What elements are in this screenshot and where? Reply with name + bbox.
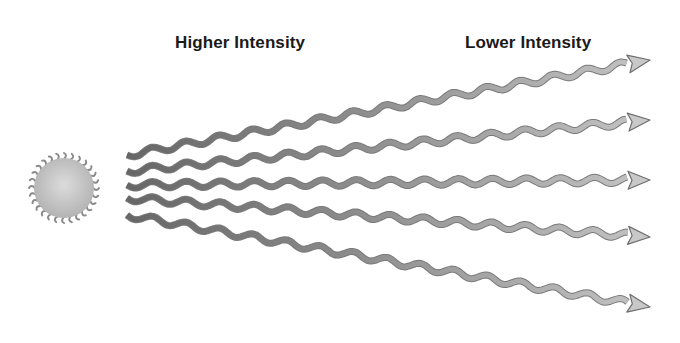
light-ray — [127, 171, 650, 189]
sun-icon — [29, 153, 99, 223]
arrowhead-icon — [627, 294, 650, 312]
light-rays — [127, 55, 650, 312]
radiation-diagram — [0, 0, 680, 343]
arrowhead-icon — [627, 226, 650, 244]
light-ray — [127, 197, 650, 245]
arrowhead-icon — [627, 55, 650, 73]
arrowhead-icon — [627, 113, 650, 131]
arrowhead-icon — [628, 171, 650, 189]
